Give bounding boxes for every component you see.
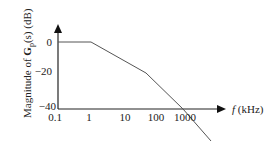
y-axis-arrow-icon (54, 24, 62, 33)
bode-magnitude-chart: 0 −20 −40 0.1 1 10 100 1000 f (kHz) Magn… (0, 0, 278, 143)
x-tick-100: 100 (148, 111, 165, 123)
x-tick-10: 10 (120, 111, 132, 123)
x-axis-arrow-icon (217, 105, 226, 113)
x-tick-1000: 1000 (174, 111, 197, 123)
y-tick-0: 0 (47, 36, 53, 48)
y-tick-20: −20 (35, 65, 53, 77)
y-axis-label: Magnitude of Gp(s) (dB) (21, 8, 36, 118)
x-axis-label: f (kHz) (232, 103, 264, 116)
x-tick-0.1: 0.1 (48, 111, 62, 123)
x-tick-1: 1 (86, 111, 92, 123)
magnitude-curve (58, 42, 211, 141)
